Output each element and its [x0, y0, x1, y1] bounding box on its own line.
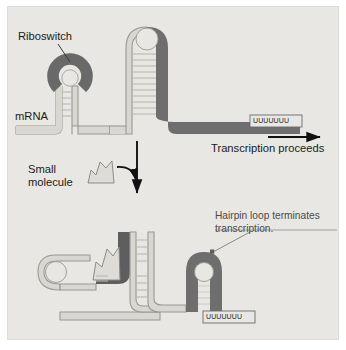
- transcription-proceeds-label: Transcription proceeds: [211, 142, 324, 155]
- small-molecule-shape-top: [88, 161, 114, 183]
- bottom-mrna-backbone: [60, 312, 160, 320]
- riboswitch-label: Riboswitch: [18, 30, 72, 43]
- figure-container: Riboswitch mRNA Small molecule Transcrip…: [0, 0, 346, 350]
- top-mrna-connector: [110, 126, 126, 134]
- bottom-central-stem-rungs: [136, 240, 148, 297]
- terminator-hairpin: [186, 252, 222, 312]
- bottom-central-stem-right: [148, 232, 186, 312]
- terminator-hairpin-loop-opening: [195, 263, 214, 282]
- polyU-sequence-bottom: UUUUUUU: [206, 313, 242, 320]
- bottom-central-stem-left: [130, 232, 160, 312]
- mrna-label: mRNA: [15, 110, 48, 123]
- ligand-binding-arrow: [117, 167, 136, 180]
- terminator-hairpin-rungs: [198, 286, 210, 304]
- small-molecule-label: Small molecule: [28, 163, 90, 189]
- top-hairpin-loop-opening: [136, 28, 158, 50]
- top-riboswitch-rungs: [62, 92, 72, 116]
- top-hairpin-rungs: [132, 54, 156, 114]
- riboswitch-aptamer-ring: [53, 59, 87, 88]
- polyU-sequence-top: UUUUUUU: [253, 117, 289, 124]
- top-riboswitch-stem: [72, 86, 110, 134]
- bottom-left-loop: [38, 255, 96, 290]
- hairpin-loop-annotation: Hairpin loop terminates transcription.: [215, 209, 339, 235]
- small-molecule-bound: [93, 247, 120, 280]
